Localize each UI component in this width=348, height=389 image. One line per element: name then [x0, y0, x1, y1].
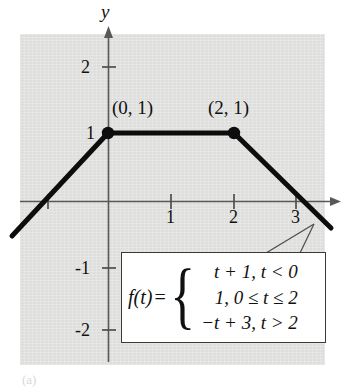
piecewise-case-3: −t + 3, t > 2: [201, 310, 298, 335]
figure-caption: (a): [22, 372, 36, 388]
piecewise-case-1: t + 1, t < 0: [214, 259, 298, 284]
point-annotation-0-1: (0, 1): [112, 98, 153, 117]
y-axis-arrowhead: [104, 26, 113, 38]
y-tick-label-1: 1: [86, 124, 95, 142]
y-axis-label: y: [101, 2, 109, 21]
left-brace-glyph: {: [170, 267, 195, 325]
x-axis-arrowhead: [330, 197, 341, 206]
piecewise-case-2: 1, 0 ≤ t ≤ 2: [215, 285, 298, 310]
marked-point-2-1: [228, 127, 240, 139]
y-tick-label-minus1: -1: [75, 259, 90, 277]
callout-leader-lines: [266, 224, 314, 253]
curve-segment-right: [234, 133, 331, 228]
formula-callout-box: f(t) = { t + 1, t < 0 1, 0 ≤ t ≤ 2 −t + …: [121, 252, 326, 343]
y-tick-label-minus2: -2: [75, 321, 90, 339]
figure-graph-piecewise-function: y 2 1 -1 -2 1 2 3 (0, 1) (2, 1) f(t) = {…: [0, 0, 348, 389]
x-tick-label-2: 2: [229, 208, 238, 226]
x-tick-label-1: 1: [166, 208, 175, 226]
y-tick-label-2: 2: [81, 58, 90, 76]
x-tick-label-3: 3: [291, 208, 300, 226]
formula-content: f(t) = { t + 1, t < 0 1, 0 ≤ t ≤ 2 −t + …: [128, 259, 302, 335]
point-annotation-2-1: (2, 1): [208, 98, 249, 117]
curve-segment-left: [12, 133, 108, 236]
function-name-label: f(t): [128, 286, 152, 309]
marked-point-0-1: [102, 127, 114, 139]
equals-sign: =: [154, 286, 165, 309]
piecewise-cases-list: t + 1, t < 0 1, 0 ≤ t ≤ 2 −t + 3, t > 2: [200, 259, 302, 335]
